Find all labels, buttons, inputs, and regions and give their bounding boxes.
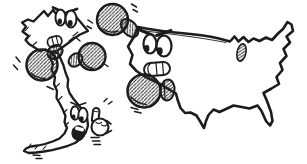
cartoon-stage	[0, 0, 307, 164]
cartoon-canvas	[0, 0, 307, 164]
